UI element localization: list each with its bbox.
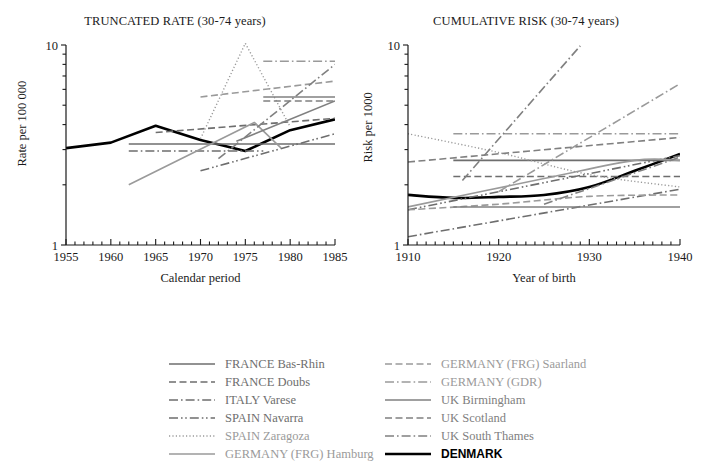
legend-item-label: UK Birmingham	[441, 394, 525, 406]
series-line	[408, 189, 680, 236]
legend-item-label: DENMARK	[441, 448, 502, 460]
panel-cumulative-risk: CUMULATIVE RISK (30-74 years) Risk per 1…	[350, 0, 702, 300]
legend-line-swatch	[168, 412, 216, 424]
x-tick-label: 1940	[668, 250, 693, 264]
x-tick-label: 1965	[143, 250, 168, 264]
series-line	[66, 119, 335, 151]
legend-item-label: FRANCE Bas-Rhin	[225, 358, 325, 370]
legend-item-label: ITALY Varese	[225, 394, 296, 406]
legend-line-swatch	[384, 448, 432, 460]
legend-item-label: GERMANY (FRG) Hamburg	[225, 448, 374, 460]
figure-root: TRUNCATED RATE (30-74 years) Rate per 10…	[0, 0, 702, 470]
legend-item-label: SPAIN Navarra	[225, 412, 303, 424]
legend-item-label: UK Scotland	[441, 412, 506, 424]
legend-item[interactable]: UK Scotland	[384, 409, 586, 427]
legend-item[interactable]: GERMANY (FRG) Saarland	[384, 355, 586, 373]
legend-line-swatch	[168, 358, 216, 370]
legend-item[interactable]: FRANCE Bas-Rhin	[168, 355, 374, 373]
legend-item[interactable]: UK South Thames	[384, 427, 586, 445]
legend-item[interactable]: SPAIN Navarra	[168, 409, 374, 427]
panel-truncated-rate: TRUNCATED RATE (30-74 years) Rate per 10…	[0, 0, 350, 300]
legend-item-label: FRANCE Doubs	[225, 376, 310, 388]
y-tick-label: 10	[388, 39, 401, 53]
x-tick-label: 1955	[54, 250, 79, 264]
legend-line-swatch	[384, 430, 432, 442]
legend-line-swatch	[384, 412, 432, 424]
legend-column-left: FRANCE Bas-RhinFRANCE DoubsITALY VareseS…	[168, 355, 374, 463]
legend-item-label: SPAIN Zaragoza	[225, 430, 310, 442]
x-tick-label: 1970	[188, 250, 213, 264]
legend-item-label: GERMANY (FRG) Saarland	[441, 358, 586, 370]
x-tick-label: 1960	[98, 250, 123, 264]
legend-line-swatch	[168, 448, 216, 460]
x-tick-label: 1930	[577, 250, 602, 264]
legend-item[interactable]: ITALY Varese	[168, 391, 374, 409]
legend-item[interactable]: DENMARK	[384, 445, 586, 463]
legend-item[interactable]: GERMANY (FRG) Hamburg	[168, 445, 374, 463]
series-line	[408, 159, 680, 207]
series-line	[499, 84, 680, 192]
y-tick-label: 10	[46, 39, 59, 53]
axes	[66, 45, 335, 245]
plot-area-right: 1011910192019301940	[350, 0, 702, 300]
x-tick-label: 1920	[486, 250, 511, 264]
axes	[408, 45, 680, 245]
legend-item[interactable]: GERMANY (GDR)	[384, 373, 586, 391]
x-tick-label: 1980	[278, 250, 303, 264]
legend-column-right: GERMANY (FRG) SaarlandGERMANY (GDR)UK Bi…	[384, 355, 586, 463]
legend-line-swatch	[384, 358, 432, 370]
series-line	[408, 137, 680, 162]
legend-line-swatch	[384, 394, 432, 406]
legend-line-swatch	[168, 430, 216, 442]
legend-item[interactable]: FRANCE Doubs	[168, 373, 374, 391]
legend-line-swatch	[384, 376, 432, 388]
legend-item-label: UK South Thames	[441, 430, 534, 442]
legend-item[interactable]: SPAIN Zaragoza	[168, 427, 374, 445]
legend: FRANCE Bas-RhinFRANCE DoubsITALY VareseS…	[0, 355, 702, 467]
legend-item[interactable]: UK Birmingham	[384, 391, 586, 409]
legend-item-label: GERMANY (GDR)	[441, 376, 542, 388]
plot-area-left: 1011955196019651970197519801985	[0, 0, 350, 300]
x-tick-label: 1975	[233, 250, 258, 264]
series-line	[236, 101, 335, 141]
legend-line-swatch	[168, 376, 216, 388]
x-tick-label: 1910	[396, 250, 421, 264]
legend-line-swatch	[168, 394, 216, 406]
x-tick-label: 1985	[323, 250, 348, 264]
